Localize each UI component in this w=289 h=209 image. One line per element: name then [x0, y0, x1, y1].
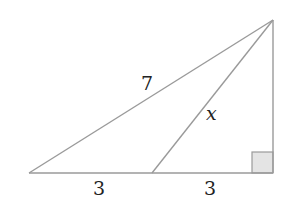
triangle-diagram: 7 x 3 3: [0, 0, 289, 209]
cevian-line: [152, 20, 273, 173]
right-angle-marker: [252, 152, 273, 173]
label-cevian-x: x: [206, 102, 217, 124]
label-hypotenuse: 7: [141, 72, 153, 94]
label-base-left: 3: [93, 177, 105, 199]
diagram-canvas: 7 x 3 3: [0, 0, 289, 209]
hypotenuse-line: [29, 20, 273, 173]
label-base-right: 3: [204, 177, 216, 199]
